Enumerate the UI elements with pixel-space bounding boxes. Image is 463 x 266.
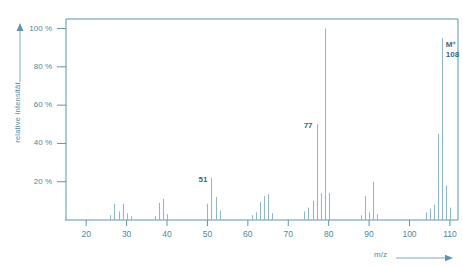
spectrum-plot [0, 0, 463, 266]
x-axis-ticks [86, 220, 450, 226]
y-tick-label-80: 80 % [18, 62, 52, 71]
x-tick-label-90: 90 [356, 229, 382, 239]
x-tick-label-20: 20 [73, 229, 99, 239]
x-tick-label-40: 40 [154, 229, 180, 239]
x-tick-label-80: 80 [316, 229, 342, 239]
x-tick-label-70: 70 [275, 229, 301, 239]
y-tick-label-40: 40 % [18, 138, 52, 147]
peak-annotation-77: 77 [295, 121, 313, 130]
peak-series [111, 29, 451, 220]
peak-annotation-51: 51 [189, 175, 207, 184]
peak-annotation-mplus: M⁺ [446, 40, 459, 50]
x-tick-label-50: 50 [194, 229, 220, 239]
y-tick-label-100: 100 % [18, 24, 52, 33]
y-axis-ticks [57, 29, 66, 182]
peak-annotation-mass: 108 [446, 50, 459, 60]
plot-frame [65, 19, 458, 220]
y-tick-label-20: 20 % [18, 177, 52, 186]
mass-spectrum-figure: relative Intensität m/z 20 %40 %60 %80 %… [0, 0, 463, 266]
peak-annotation-molecular-ion: M⁺108 [446, 40, 459, 60]
x-tick-label-100: 100 [397, 229, 423, 239]
x-tick-label-60: 60 [235, 229, 261, 239]
x-tick-label-30: 30 [114, 229, 140, 239]
y-tick-label-60: 60 % [18, 100, 52, 109]
x-tick-label-110: 110 [437, 229, 463, 239]
